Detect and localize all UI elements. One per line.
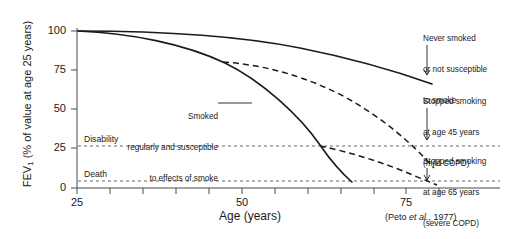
citation-suffix: , 1977) [429, 212, 457, 222]
curve-stopped-age-45 [223, 62, 434, 168]
annotation-stopped-65-line1: Stopped smoking [423, 157, 486, 167]
citation-prefix: (Peto [385, 212, 409, 222]
annotation-never-smoked-line1: Never smoked [423, 34, 487, 44]
y-tick-marks [71, 31, 77, 188]
x-tick-label-50: 50 [222, 196, 262, 208]
annotation-stopped-65-line2: at age 65 years [423, 188, 486, 198]
x-axis-title: Age (years) [170, 209, 330, 223]
x-tick-label-25: 25 [57, 196, 97, 208]
annotation-smoked-regularly-line3: to effects of smoke [98, 174, 218, 184]
annotation-stopped-45-line1: Stopped smoking [423, 97, 486, 107]
annotation-smoked-regularly: Smoked regularly and susceptible to effe… [98, 92, 218, 204]
annotation-never-smoked-line2: or not susceptible [423, 65, 487, 75]
fev-decline-chart: FEV1 (% of value at age 25 years) 100 75… [0, 0, 511, 239]
y-axis-title-subscript: 1 [26, 161, 35, 165]
y-tick-label-50: 50 [24, 102, 66, 114]
y-tick-label-75: 75 [24, 63, 66, 75]
annotation-smoked-regularly-line2: regularly and susceptible [98, 143, 218, 153]
citation-italic: et al. [409, 212, 429, 222]
x-tick-label-75: 75 [386, 196, 426, 208]
curve-never-smoked [78, 31, 432, 84]
y-tick-label-25: 25 [24, 141, 66, 153]
annotation-smoked-regularly-line1: Smoked [98, 112, 218, 122]
chart-citation: (Peto et al., 1977) [385, 212, 457, 222]
y-tick-label-0: 0 [24, 181, 66, 193]
annotation-stopped-65: Stopped smoking at age 65 years (severe … [423, 137, 486, 239]
y-tick-label-100: 100 [24, 24, 66, 36]
